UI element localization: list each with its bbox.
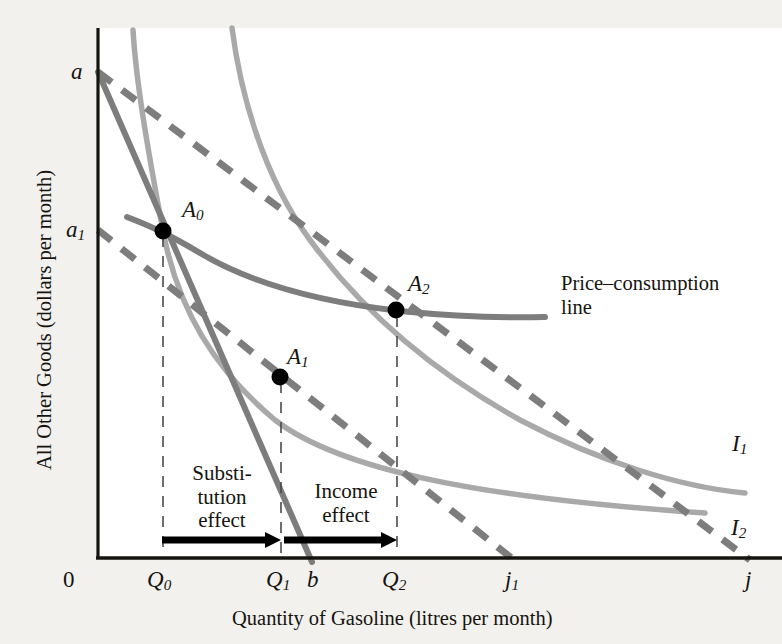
x-tick-Q2-sub: 2 [399,576,407,593]
point-label-A2-sub: 2 [422,280,430,297]
point-label-A2-text: A [408,271,422,296]
point-A2 [388,302,405,319]
price-consumption-line [127,217,545,317]
price-consumption-line-label-line1: Price–consumption [561,272,719,296]
substitution-effect-label: Substi- tution effect [180,462,264,533]
curve-label-I1: I1 [732,432,747,457]
substitution-effect-line2: tution [180,486,264,510]
y-tick-a: a [71,60,83,83]
x-tick-Q1: Q1 [266,568,290,593]
point-label-A1-sub: 1 [301,353,309,370]
point-label-A0: A0 [182,198,204,223]
origin-label: 0 [63,568,75,591]
curve-label-I2-text: I [731,515,739,540]
substitution-effect-line1: Substi- [180,462,264,486]
point-label-A2: A2 [408,272,430,297]
curve-label-I2: I2 [731,516,746,541]
x-axis-title: Quantity of Gasoline (litres per month) [232,608,553,629]
x-tick-Q0-text: Q [147,567,164,592]
x-tick-b-text: b [307,567,319,592]
income-effect-line1: Income [300,480,392,504]
chart-graphics [0,0,782,644]
curve-label-I1-sub: 1 [740,440,748,457]
x-tick-j1: j1 [505,568,519,593]
curve-label-I1-text: I [732,431,740,456]
income-effect-line2: effect [300,504,392,528]
point-A1 [272,369,289,386]
y-tick-a1: a1 [66,218,85,243]
substitution-effect-arrow [162,532,281,548]
x-tick-Q0-sub: 0 [164,576,172,593]
price-consumption-line-label-line2: line [561,296,719,320]
point-label-A0-sub: 0 [196,206,204,223]
indifference-curve-I2 [232,28,745,493]
y-tick-a-text: a [71,59,83,84]
y-tick-a1-text: a [66,217,78,242]
x-tick-j-text: j [745,567,751,592]
curve-label-I2-sub: 2 [739,524,747,541]
income-effect-label: Income effect [300,480,392,527]
x-tick-Q1-text: Q [266,567,283,592]
x-tick-Q2: Q2 [382,568,406,593]
y-tick-a1-sub: 1 [78,226,86,243]
point-A0 [155,223,172,240]
point-label-A1: A1 [287,345,309,370]
substitution-effect-line3: effect [180,509,264,533]
x-tick-j: j [745,568,751,591]
x-tick-b: b [307,568,319,591]
x-tick-Q0: Q0 [147,568,171,593]
y-axis-title: All Other Goods (dollars per month) [34,170,55,470]
x-tick-Q1-sub: 1 [283,576,291,593]
price-consumption-line-label: Price–consumption line [561,272,719,319]
point-label-A0-text: A [182,197,196,222]
x-tick-j1-sub: 1 [511,576,519,593]
x-tick-Q2-text: Q [382,567,399,592]
figure-container: All Other Goods (dollars per month) Quan… [0,0,782,644]
point-label-A1-text: A [287,344,301,369]
